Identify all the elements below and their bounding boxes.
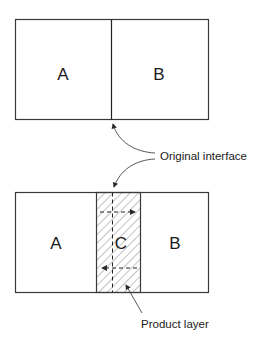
top-block-b-label: B xyxy=(153,65,164,84)
original-interface-label: Original interface xyxy=(160,150,247,162)
product-layer-label: Product layer xyxy=(141,318,209,330)
original-interface-annotation: Original interface xyxy=(113,124,247,187)
top-block-a-label: A xyxy=(57,65,69,84)
bottom-assembly: A C B xyxy=(16,193,209,293)
curved-arrow-down-icon xyxy=(114,159,155,187)
bottom-block-c-label: C xyxy=(115,234,127,253)
bottom-block-b-label: B xyxy=(169,234,180,253)
top-assembly: A B xyxy=(16,20,209,120)
diagram-canvas: A B Original interface A C B Product lay… xyxy=(0,0,253,348)
curved-arrow-up-icon xyxy=(113,124,155,153)
bottom-block-a-label: A xyxy=(50,234,62,253)
